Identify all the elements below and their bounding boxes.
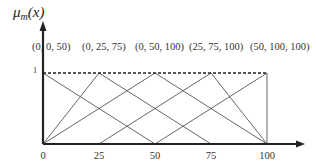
x-tick-100: 100	[259, 150, 275, 161]
series-line-4	[99, 73, 267, 144]
x-tick-25: 25	[94, 150, 105, 161]
y-axis-arrow-icon	[40, 21, 47, 31]
x-tick-75: 75	[206, 150, 217, 161]
series-line-2	[43, 73, 211, 144]
x-tick-0: 0	[40, 150, 45, 161]
x-axis-arrow-icon	[296, 141, 305, 148]
x-tick-50: 50	[150, 150, 161, 161]
membership-function-plot	[0, 0, 316, 167]
